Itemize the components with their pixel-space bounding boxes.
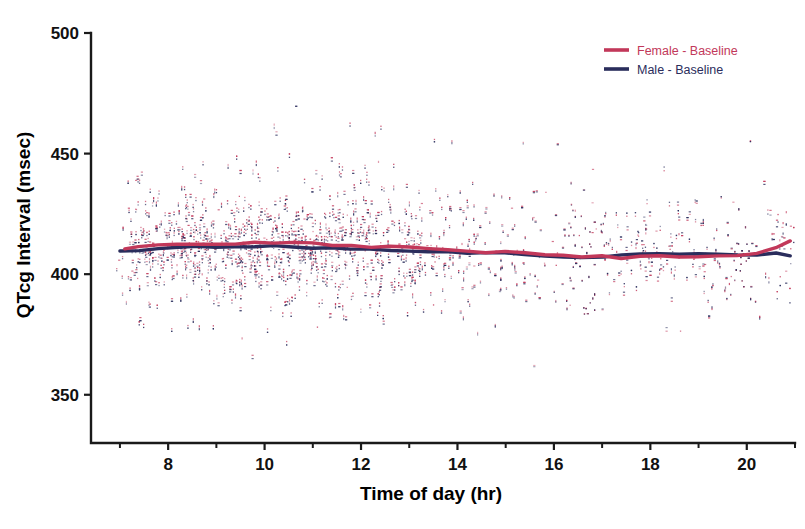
x-tick-label: 16 [544, 455, 563, 474]
scatter-plot: 3504004505008101214161820Time of day (hr… [0, 0, 805, 529]
x-tick-label: 10 [255, 455, 274, 474]
x-tick-label: 18 [641, 455, 660, 474]
legend-label: Male - Baseline [637, 63, 723, 77]
scatter-points-layer [116, 106, 794, 368]
y-axis-title: QTcg Interval (msec) [13, 132, 34, 319]
legend-entry-male: Male - Baseline [604, 63, 723, 77]
x-tick-label: 14 [448, 455, 467, 474]
chart-legend: Female - BaselineMale - Baseline [604, 44, 738, 77]
x-tick-label: 12 [352, 455, 371, 474]
axis-frame [91, 33, 795, 443]
axes-layer [84, 33, 795, 450]
y-tick-label: 400 [51, 265, 79, 284]
x-axis-title: Time of day (hr) [360, 483, 502, 504]
chart-figure: 3504004505008101214161820Time of day (hr… [0, 0, 805, 529]
trend-line-female [125, 241, 790, 259]
trend-lines-layer [120, 241, 790, 259]
y-tick-label: 350 [51, 386, 79, 405]
legend-entry-female: Female - Baseline [604, 44, 738, 58]
x-tick-label: 8 [163, 455, 172, 474]
y-tick-label: 450 [51, 145, 79, 164]
x-tick-label: 20 [737, 455, 756, 474]
y-tick-label: 500 [51, 24, 79, 43]
scatter-series-male [116, 106, 794, 368]
legend-label: Female - Baseline [637, 44, 738, 58]
axis-labels-layer: 3504004505008101214161820Time of day (hr… [13, 24, 756, 504]
